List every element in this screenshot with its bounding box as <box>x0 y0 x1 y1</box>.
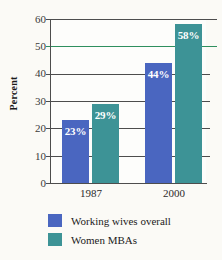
y-tick-mark-0 <box>46 183 50 184</box>
y-tick-mark-40 <box>46 74 50 75</box>
y-tick-label: 20 <box>20 123 46 134</box>
plot-area: 23% 29% 44% 58% <box>50 19 206 183</box>
y-tick-label: 30 <box>20 96 46 107</box>
y-tick-label: 40 <box>20 68 46 79</box>
bar-1987-women-mbas: 29% <box>92 104 119 183</box>
y-axis-title: Percent <box>8 64 19 124</box>
y-tick-mark-right-20 <box>206 128 210 129</box>
legend-label: Women MBAs <box>71 234 137 246</box>
bar-value-label: 58% <box>175 29 202 41</box>
x-tick-label-1987: 1987 <box>61 187 121 199</box>
legend-label: Working wives overall <box>71 215 171 227</box>
y-tick-mark-right-10 <box>206 156 210 157</box>
bar-chart: Percent 60 50 40 30 20 10 0 <box>0 0 222 260</box>
x-axis-line <box>50 183 207 184</box>
edge-line-60 <box>206 19 217 20</box>
y-axis-tick-labels: 60 50 40 30 20 10 0 <box>18 0 46 260</box>
y-tick-label: 50 <box>20 41 46 52</box>
bar-2000-women-mbas: 58% <box>175 24 202 183</box>
bar-value-label: 23% <box>62 125 89 137</box>
y-tick-label: 60 <box>20 14 46 25</box>
y-tick-label: 10 <box>20 151 46 162</box>
x-axis-tick-labels: 1987 2000 <box>50 187 210 203</box>
bar-value-label: 44% <box>145 68 172 80</box>
y-tick-mark-right-40 <box>206 74 210 75</box>
y-axis-line <box>50 19 51 184</box>
edge-line-50 <box>206 46 217 47</box>
legend-item-women-mbas: Women MBAs <box>48 230 171 249</box>
bar-value-label: 29% <box>92 109 119 121</box>
y-tick-mark-60 <box>46 19 50 20</box>
bar-2000-working-wives: 44% <box>145 63 172 183</box>
y-tick-mark-20 <box>46 128 50 129</box>
y-tick-mark-30 <box>46 101 50 102</box>
y-tick-mark-50 <box>46 46 50 47</box>
legend-swatch-blue <box>48 214 62 227</box>
legend-item-working-wives-overall: Working wives overall <box>48 211 171 230</box>
legend-swatch-teal <box>48 233 62 246</box>
legend: Working wives overall Women MBAs <box>48 211 171 249</box>
x-tick-label-2000: 2000 <box>144 187 204 199</box>
gridline-60 <box>50 19 206 20</box>
bar-1987-working-wives: 23% <box>62 120 89 183</box>
y-tick-label: 0 <box>20 178 46 189</box>
y-tick-mark-10 <box>46 156 50 157</box>
y-tick-mark-right-30 <box>206 101 210 102</box>
